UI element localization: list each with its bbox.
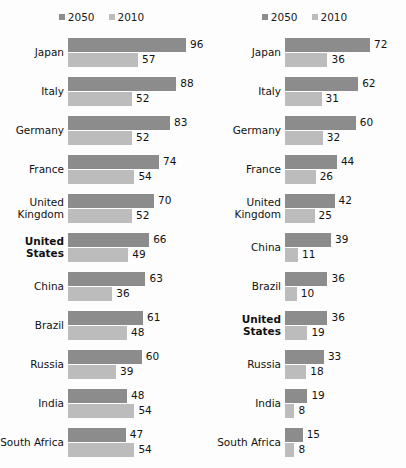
chart-rows-left: Japan9657Italy8852Germany8352France7454U… [0,33,203,462]
bar-group: 6148 [68,311,203,341]
bar-2010-line: 25 [285,209,406,223]
category-label: Italy [0,86,68,98]
bar-2010-value: 18 [310,366,323,377]
bar-2010-value: 8 [298,444,305,455]
bar-group: 7052 [68,194,203,224]
bar-2050-value: 19 [311,390,324,401]
bar-2050-value: 61 [147,312,160,323]
legend-label-2050: 2050 [271,12,298,23]
chart-row: India198 [203,384,406,423]
bar-2010 [68,404,134,418]
bar-2050-value: 36 [331,312,344,323]
bar-2010 [285,365,306,379]
chart-row: United Kingdom7052 [0,189,203,228]
bar-2010 [68,248,128,262]
chart-row: France4426 [203,150,406,189]
bar-2050 [285,350,324,364]
legend-swatch-2050-icon [262,14,268,20]
chart-row: China6336 [0,267,203,306]
bar-2010 [285,131,323,145]
chart-row: Japan7236 [203,33,406,72]
bar-2050 [68,155,159,169]
chart-row: France7454 [0,150,203,189]
bar-2010 [285,92,322,106]
bar-2050 [285,194,335,208]
legend-label-2010: 2010 [321,12,348,23]
category-label: Japan [0,47,68,59]
bar-2050-value: 44 [341,156,354,167]
bar-2010-value: 32 [327,132,340,143]
bar-group: 9657 [68,38,203,68]
bar-2010-line: 31 [285,92,406,106]
legend-item-2010: 2010 [312,12,348,23]
bar-2010-value: 48 [131,327,144,338]
bar-2050-line: 63 [68,272,203,286]
bar-2010-value: 54 [138,405,151,416]
bar-group: 3619 [285,311,406,341]
bar-2010-line: 26 [285,170,406,184]
bar-2010 [285,248,298,262]
chart-row: India4854 [0,384,203,423]
bar-2010 [68,443,134,457]
bar-2010-line: 39 [68,365,203,379]
bar-2050-value: 42 [339,195,352,206]
chart-row: United States3619 [203,306,406,345]
bar-group: 6039 [68,350,203,380]
chart-row: Japan9657 [0,33,203,72]
legend-swatch-2050-icon [59,14,65,20]
bar-2050-line: 39 [285,233,406,247]
category-label: Brazil [203,281,285,293]
bar-2010 [68,53,138,67]
category-label: United Kingdom [203,197,285,220]
bar-2050 [68,311,143,325]
chart-row: Italy6231 [203,72,406,111]
category-label: South Africa [0,437,68,449]
bar-2050-line: 36 [285,272,406,286]
bar-2010 [68,365,116,379]
legend-swatch-2010-icon [109,14,115,20]
bar-2050 [68,38,186,52]
bar-2010-value: 8 [298,405,305,416]
bar-2010-value: 49 [132,249,145,260]
bar-group: 3318 [285,350,406,380]
bar-2010 [68,131,132,145]
legend-swatch-2010-icon [312,14,318,20]
bar-2010 [68,170,134,184]
bar-2010 [285,209,315,223]
bar-2010-value: 52 [136,210,149,221]
bar-2050-line: 48 [68,389,203,403]
bar-2050-line: 15 [285,428,406,442]
bar-2010-value: 57 [142,54,155,65]
bar-2010-value: 26 [320,171,333,182]
bar-2010-line: 49 [68,248,203,262]
bar-2050-value: 88 [180,78,193,89]
bar-2050-value: 47 [130,429,143,440]
bar-2050 [285,389,307,403]
chart-row: China3911 [203,228,406,267]
bar-2050-line: 96 [68,38,203,52]
bar-2050-line: 74 [68,155,203,169]
bar-2010-line: 36 [285,53,406,67]
bar-2050 [68,116,170,130]
bar-2050-value: 96 [190,39,203,50]
chart-row: Italy8852 [0,72,203,111]
category-label: United Kingdom [0,197,68,220]
chart-row: Russia6039 [0,345,203,384]
bar-2010-line: 57 [68,53,203,67]
bar-2050-line: 83 [68,116,203,130]
bar-2050 [285,233,331,247]
bar-2010-value: 52 [136,93,149,104]
bar-2010-value: 11 [302,249,315,260]
category-label: Germany [0,125,68,137]
bar-2050-line: 60 [68,350,203,364]
bar-group: 7454 [68,155,203,185]
bar-2010 [285,287,297,301]
chart-row: United Kingdom4225 [203,189,406,228]
bar-group: 6032 [285,116,406,146]
chart-row: Germany6032 [203,111,406,150]
bar-2050 [285,311,327,325]
chart-row: United States6649 [0,228,203,267]
bar-2010 [285,443,294,457]
bar-2050 [285,38,370,52]
category-label: Germany [203,125,285,137]
